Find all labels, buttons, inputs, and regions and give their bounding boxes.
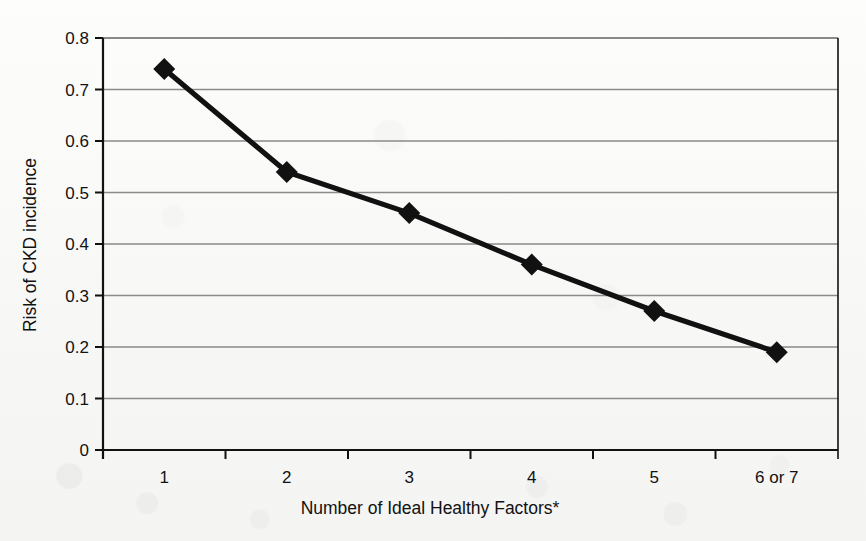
data-point-marker (398, 202, 420, 224)
x-tick-label: 6 or 7 (755, 468, 798, 487)
x-axis-tick-marks (226, 450, 716, 459)
y-axis-tick-marks (95, 38, 103, 450)
y-tick-label: 0.5 (65, 184, 89, 203)
x-axis-tick-labels: 123456 or 7 (160, 468, 799, 487)
x-tick-label: 1 (160, 468, 169, 487)
x-axis-title: Number of Ideal Healthy Factors* (301, 498, 560, 518)
x-tick-label: 4 (527, 468, 536, 487)
y-tick-label: 0.7 (65, 81, 89, 100)
y-tick-label: 0.3 (65, 287, 89, 306)
data-series-line (164, 69, 777, 352)
data-point-marker (521, 254, 543, 276)
y-tick-label: 0.8 (65, 29, 89, 48)
y-axis-tick-labels: 00.10.20.30.40.50.60.70.8 (65, 29, 89, 460)
y-tick-label: 0.1 (65, 390, 89, 409)
x-tick-label: 2 (282, 468, 291, 487)
data-point-marker (643, 300, 665, 322)
data-point-markers-group (153, 58, 788, 363)
line-chart: 00.10.20.30.40.50.60.70.8 123456 or 7 Ri… (0, 0, 866, 541)
chart-container: 00.10.20.30.40.50.60.70.8 123456 or 7 Ri… (0, 0, 866, 541)
x-tick-label: 3 (405, 468, 414, 487)
y-tick-label: 0.2 (65, 338, 89, 357)
y-tick-label: 0.6 (65, 132, 89, 151)
x-tick-label: 5 (650, 468, 659, 487)
y-axis-title: Risk of CKD incidence (20, 158, 40, 332)
data-point-marker (766, 341, 788, 363)
y-tick-label: 0.4 (65, 235, 89, 254)
y-tick-label: 0 (80, 441, 89, 460)
gridlines-group (103, 38, 838, 399)
